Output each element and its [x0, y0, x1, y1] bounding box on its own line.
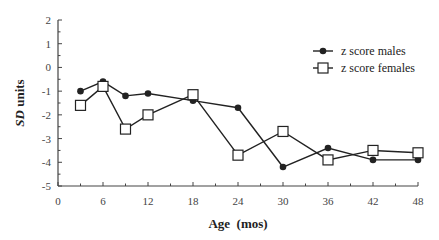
open-square-marker — [413, 148, 423, 158]
y-tick-label: -2 — [42, 109, 51, 121]
y-tick-label: 2 — [46, 14, 52, 26]
y-axis-title-italic: SD — [12, 109, 27, 126]
x-tick-label: 36 — [323, 195, 335, 207]
open-square-marker — [121, 124, 131, 134]
filled-circle-marker — [370, 157, 377, 164]
x-tick-label: 42 — [368, 195, 379, 207]
legend-label: z score males — [341, 44, 406, 58]
open-square-marker — [98, 81, 108, 91]
filled-circle-marker — [235, 104, 242, 111]
y-tick-label: 1 — [46, 38, 52, 50]
series-line — [81, 82, 419, 167]
x-tick-label: 0 — [55, 195, 61, 207]
line-chart: 210-1-2-3-4-50612182430364248 z score ma… — [0, 0, 439, 240]
filled-circle-marker — [122, 93, 129, 100]
x-tick-label: 48 — [413, 195, 425, 207]
legend-item: z score females — [313, 61, 415, 75]
open-square-marker — [143, 110, 153, 120]
legend-item: z score males — [313, 44, 406, 58]
filled-circle-marker — [320, 48, 327, 55]
legend-label: z score females — [341, 61, 415, 75]
legend: z score malesz score females — [313, 44, 415, 75]
filled-circle-marker — [77, 88, 84, 95]
open-square-marker — [318, 63, 328, 73]
axes: 210-1-2-3-4-50612182430364248 — [42, 14, 424, 207]
x-tick-label: 24 — [233, 195, 245, 207]
y-tick-label: -4 — [42, 156, 52, 168]
x-tick-label: 18 — [188, 195, 200, 207]
filled-circle-marker — [325, 145, 332, 152]
x-tick-label: 12 — [143, 195, 154, 207]
open-square-marker — [233, 150, 243, 160]
y-axis-title-rest: units — [12, 79, 27, 110]
y-tick-label: -5 — [42, 180, 52, 192]
series-group — [76, 78, 424, 170]
open-square-marker — [76, 100, 86, 110]
open-square-marker — [368, 145, 378, 155]
open-square-marker — [188, 90, 198, 100]
x-tick-label: 6 — [100, 195, 106, 207]
open-square-marker — [323, 155, 333, 165]
filled-circle-marker — [145, 90, 152, 97]
y-axis-title: SD units — [12, 79, 27, 126]
y-tick-label: -1 — [42, 85, 51, 97]
x-tick-label: 30 — [278, 195, 290, 207]
filled-circle-marker — [280, 164, 287, 171]
y-tick-label: -3 — [42, 133, 52, 145]
open-square-marker — [278, 126, 288, 136]
x-axis-title: Age (mos) — [208, 216, 267, 231]
y-tick-label: 0 — [46, 61, 52, 73]
